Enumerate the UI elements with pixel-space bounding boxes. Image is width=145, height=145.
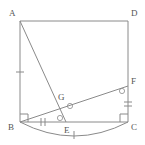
segment-BF xyxy=(20,86,128,122)
vertex-label-C: C xyxy=(131,122,137,132)
geometry-canvas: A D B C E F G xyxy=(0,0,145,145)
vertex-label-D: D xyxy=(131,8,138,18)
vertex-label-G: G xyxy=(58,92,65,102)
vertex-label-A: A xyxy=(9,8,16,18)
right-angle-at-C xyxy=(120,114,128,122)
geometry-figure: A D B C E F G xyxy=(0,0,145,145)
segment-AE xyxy=(20,21,66,122)
vertex-label-B: B xyxy=(8,122,14,132)
angle-mark-at-E xyxy=(57,115,62,120)
vertex-label-E: E xyxy=(64,125,70,135)
angle-mark-at-F xyxy=(119,88,124,93)
vertex-label-F: F xyxy=(131,76,136,86)
